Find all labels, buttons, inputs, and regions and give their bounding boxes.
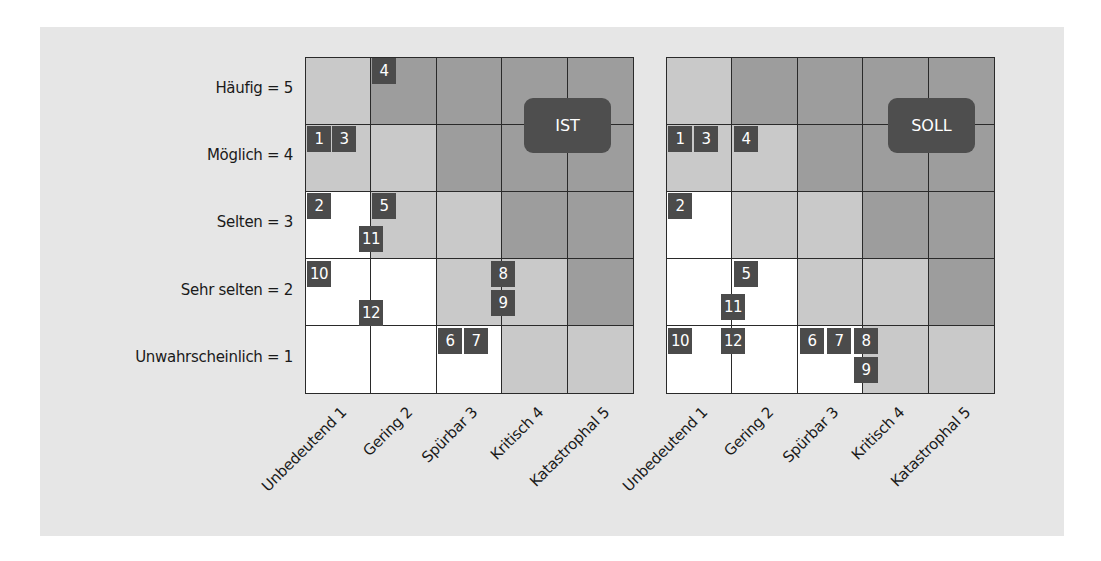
matrix-cell: [929, 259, 994, 326]
y-label-5: Häufig = 5: [215, 79, 293, 97]
risk-matrix-ist: IST413251110891267: [305, 57, 634, 394]
risk-badge: 9: [491, 290, 515, 316]
y-axis-labels: Häufig = 5 Möglich = 4 Selten = 3 Sehr s…: [60, 57, 293, 394]
matrix-cell: [568, 326, 633, 393]
risk-badge: 1: [307, 126, 331, 152]
matrix-cell: [667, 58, 732, 125]
risk-badge: 2: [668, 193, 692, 219]
risk-badge: 4: [734, 126, 758, 152]
matrix-cell: [863, 259, 928, 326]
matrix-cell: [306, 58, 371, 125]
matrix-cell: [437, 58, 502, 125]
matrix-cell: [929, 192, 994, 259]
risk-badge: 10: [307, 261, 331, 287]
matrix-cell: [732, 192, 797, 259]
matrix-cell: [929, 326, 994, 393]
y-label-3: Selten = 3: [217, 213, 293, 231]
risk-badge: 11: [721, 294, 745, 320]
matrix-cell: [502, 192, 567, 259]
risk-badge: 6: [438, 328, 462, 354]
risk-badge: 11: [359, 226, 383, 252]
y-label-1: Unwahrscheinlich = 1: [135, 348, 293, 366]
ist-label: IST: [524, 98, 611, 153]
matrix-cell: [568, 259, 633, 326]
risk-badge: 7: [464, 328, 488, 354]
soll-label: SOLL: [888, 98, 975, 153]
risk-badge: 3: [694, 126, 718, 152]
risk-badge: 3: [332, 126, 356, 152]
matrix-cell: [732, 58, 797, 125]
risk-badge: 4: [372, 58, 396, 84]
risk-badge: 9: [854, 357, 878, 383]
risk-badge: 12: [359, 300, 383, 326]
risk-badge: 8: [854, 328, 878, 354]
matrix-cell: [798, 125, 863, 192]
matrix-cell: [798, 259, 863, 326]
risk-badge: 2: [307, 193, 331, 219]
matrix-cell: [437, 192, 502, 259]
matrix-cell: [568, 192, 633, 259]
risk-badge: 7: [827, 328, 851, 354]
matrix-cell: [798, 192, 863, 259]
risk-badge: 6: [800, 328, 824, 354]
risk-badge: 12: [721, 328, 745, 354]
risk-matrix-soll: SOLL134251110126789: [666, 57, 995, 394]
risk-badge: 5: [734, 261, 758, 287]
matrix-cell: [371, 125, 436, 192]
matrix-cell: [863, 192, 928, 259]
risk-badge: 8: [491, 261, 515, 287]
matrix-cell: [437, 125, 502, 192]
matrix-cell: [502, 326, 567, 393]
risk-badge: 1: [668, 126, 692, 152]
risk-badge: 5: [372, 193, 396, 219]
matrix-cell: [306, 326, 371, 393]
matrix-cell: [798, 58, 863, 125]
y-label-4: Möglich = 4: [207, 146, 293, 164]
risk-badge: 10: [668, 328, 692, 354]
matrix-cell: [371, 326, 436, 393]
y-label-2: Sehr selten = 2: [181, 281, 293, 299]
